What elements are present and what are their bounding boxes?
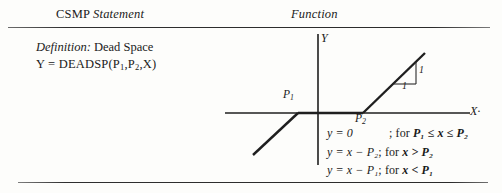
- equation-1-condition-body: P₁ ≤ x ≤ P₂: [413, 126, 468, 140]
- slope-rise-label: 1: [419, 64, 424, 75]
- point-label-p1: P1: [283, 88, 294, 102]
- deadspace-figure-page: CSMP Statement Function Definition: Dead…: [0, 0, 502, 193]
- equation-2-lhs: y = x − P₂: [327, 143, 378, 162]
- header-divider-rule: [8, 27, 490, 28]
- piecewise-equation-list: y = 0; for P₁ ≤ x ≤ P₂ y = x − P₂; for x…: [327, 124, 468, 180]
- definition-title-line: Definition: Dead Space: [36, 39, 156, 56]
- point-label-p1-subscript: 1: [290, 93, 294, 102]
- x-axis-label: X·: [470, 104, 480, 119]
- column-header-function: Function: [291, 7, 338, 22]
- equation-3-lhs: y = x − P₁: [327, 161, 378, 180]
- definition-block: Definition: Dead Space Y = DEADSP(P1,P2,…: [36, 39, 156, 76]
- footer-divider-rule: [18, 182, 488, 183]
- equation-row-3: y = x − P₁; for x < P₁: [327, 161, 468, 180]
- definition-formula-line: Y = DEADSP(P1,P2,X): [36, 56, 156, 76]
- equation-3-condition-prefix: ; for: [378, 163, 402, 177]
- function-left-branch: [253, 113, 298, 155]
- equation-1-condition-prefix: ; for: [389, 126, 413, 140]
- formula-function-call: DEADSP(P: [59, 57, 120, 71]
- equation-row-2: y = x − P₂; for x > P₂: [327, 143, 468, 162]
- equation-1-lhs: y = 0: [327, 124, 389, 143]
- equation-2-condition: ; for x > P₂: [378, 145, 433, 159]
- definition-name: Dead Space: [94, 40, 153, 54]
- y-axis-label: Y: [321, 31, 328, 46]
- equation-3-condition-body: x < P₁: [402, 163, 433, 177]
- formula-tail: ,X): [139, 57, 156, 71]
- formula-lhs: Y: [36, 57, 45, 71]
- column-header-statement-word: Statement: [93, 7, 144, 21]
- slope-run-label: 1: [402, 80, 407, 91]
- definition-label: Definition:: [36, 40, 91, 54]
- equation-2-condition-body: x > P₂: [402, 145, 433, 159]
- formula-equals: =: [48, 57, 55, 71]
- formula-comma-p2: ,P: [124, 57, 134, 71]
- column-header-csmp-acronym: CSMP: [56, 7, 90, 21]
- column-header-csmp-statement: CSMP Statement: [56, 7, 144, 22]
- point-label-p2-letter: P: [355, 112, 362, 124]
- equation-2-condition-prefix: ; for: [378, 145, 402, 159]
- point-label-p1-letter: P: [283, 88, 290, 100]
- equation-row-1: y = 0; for P₁ ≤ x ≤ P₂: [327, 124, 468, 143]
- equation-1-condition: ; for P₁ ≤ x ≤ P₂: [389, 126, 468, 140]
- x-axis-label-text: X: [470, 104, 477, 118]
- equation-3-condition: ; for x < P₁: [378, 163, 433, 177]
